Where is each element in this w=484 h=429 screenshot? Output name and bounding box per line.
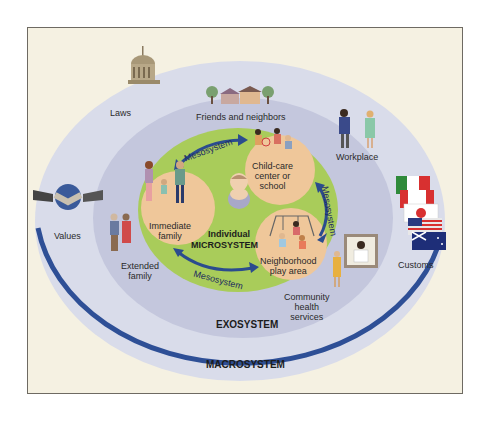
friends-neighbors-label: Friends and neighbors [196,112,286,122]
microsystem-label: MICROSYSTEM [191,240,258,250]
macrosystem-label: MACROSYSTEM [206,360,285,370]
customs-label: Customs [398,260,434,270]
extended-family-label: Extended family [121,261,159,281]
neighborhood-label: Neighborhood play area [260,256,317,276]
immediate-family-label: Immediate family [149,221,191,241]
laws-label: Laws [110,108,131,118]
exosystem-label: EXOSYSTEM [216,320,278,330]
ecological-model-rings [28,28,463,394]
childcare-label: Child-care center or school [252,161,293,191]
workplace-label: Workplace [336,152,378,162]
individual-label: Individual [208,229,250,239]
baby-icon [228,173,250,209]
values-label: Values [54,231,81,241]
diagram-frame: Laws Friends and neighbors Workplace Val… [27,27,463,394]
community-health-label: Community health services [284,292,330,322]
